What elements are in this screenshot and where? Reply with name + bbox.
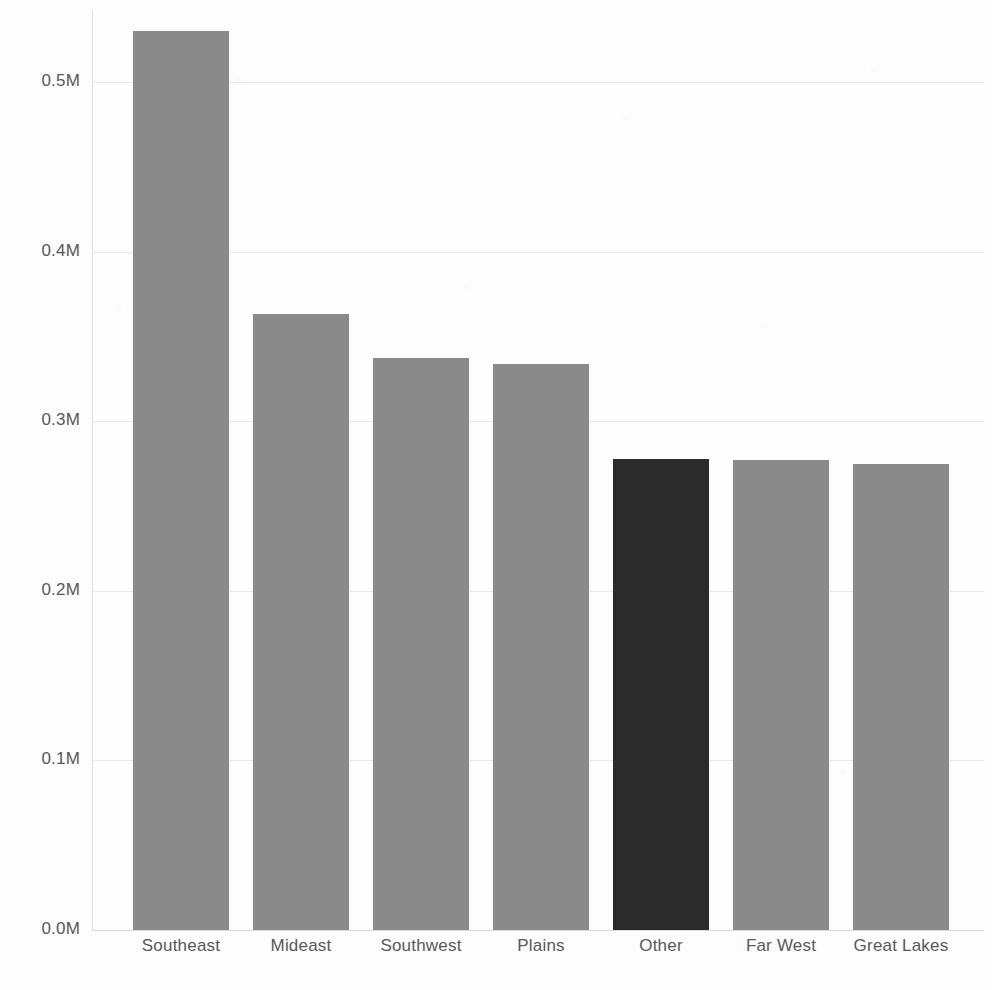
bar-other[interactable] — [613, 459, 709, 930]
bar-great-lakes[interactable] — [853, 464, 949, 930]
y-axis-tick-label: 0.4M — [8, 241, 80, 261]
bar-plains[interactable] — [493, 364, 589, 930]
y-axis-tick-label: 0.2M — [8, 580, 80, 600]
bar-mideast[interactable] — [253, 314, 349, 930]
y-axis-tick-label: 0.3M — [8, 410, 80, 430]
bar-chart: 0.0M0.1M0.2M0.3M0.4M0.5M SoutheastMideas… — [0, 0, 992, 990]
bar-southeast[interactable] — [133, 31, 229, 930]
bar-far-west[interactable] — [733, 460, 829, 930]
bar-southwest[interactable] — [373, 358, 469, 930]
x-axis-tick-label-great-lakes: Great Lakes — [823, 936, 979, 956]
y-axis-tick-label: 0.0M — [8, 919, 80, 939]
plot-area: 0.0M0.1M0.2M0.3M0.4M0.5M SoutheastMideas… — [0, 0, 992, 990]
gridline-0.0M — [92, 930, 984, 931]
y-axis-line — [92, 10, 93, 930]
y-axis-tick-label: 0.1M — [8, 749, 80, 769]
y-axis-tick-label: 0.5M — [8, 71, 80, 91]
